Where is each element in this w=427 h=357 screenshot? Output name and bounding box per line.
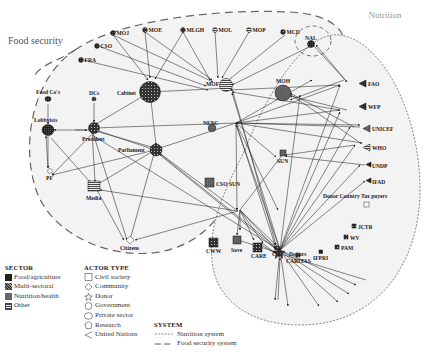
network-diagram: Food security Nutrition <box>0 0 427 357</box>
food-security-label: Food security <box>8 35 63 46</box>
svg-text:IFPRI: IFPRI <box>313 255 328 261</box>
legend-sector-nutrition: Nutrition/health <box>5 292 61 302</box>
svg-text:CARITAS: CARITAS <box>286 258 311 264</box>
legend-system-food-security: Food security system <box>154 339 237 349</box>
svg-text:Media: Media <box>86 195 101 201</box>
svg-text:UNDP: UNDP <box>372 163 388 169</box>
legend-system: SYSTEM Nutrition system Food security sy… <box>154 320 237 349</box>
legend-actor-community: Community <box>84 282 138 292</box>
legend-sector-multi: Multi-sectoral <box>5 282 61 292</box>
legend-sector: SECTOR Food/agriculture Multi-sectoral N… <box>5 263 61 311</box>
node-mop[interactable]: MOP <box>247 27 267 33</box>
legend-system-title: SYSTEM <box>154 320 237 330</box>
svg-text:MCD: MCD <box>287 29 300 35</box>
legend-actor-research: Research <box>84 321 138 331</box>
node-mcd[interactable]: MCD <box>281 29 300 35</box>
svg-text:MOL: MOL <box>219 27 233 33</box>
nutrition-label: Nutrition <box>369 10 402 20</box>
svg-text:WV: WV <box>350 235 360 241</box>
node-mol[interactable]: MOL <box>213 27 233 33</box>
square-icon <box>84 273 93 281</box>
svg-text:Cabinet: Cabinet <box>117 90 136 96</box>
legend-actor-civil: Civil society <box>84 273 138 283</box>
diamond-icon <box>84 283 93 291</box>
svg-text:Save: Save <box>231 247 243 253</box>
food-swatch-icon <box>5 274 12 281</box>
legend-actor-private: Private sector <box>84 311 138 321</box>
svg-text:Citizens: Citizens <box>120 245 140 251</box>
ellipse-icon <box>84 312 93 320</box>
multi-swatch-icon <box>5 283 12 290</box>
legend-system-nutrition: Nutrition system <box>154 330 237 340</box>
svg-text:Food Co's: Food Co's <box>36 89 61 95</box>
svg-text:PAM: PAM <box>341 245 354 251</box>
svg-text:PF: PF <box>46 175 53 181</box>
legend-sector-food: Food/agriculture <box>5 273 61 283</box>
node-mlgh[interactable]: MLGH <box>181 27 205 33</box>
svg-text:MOE: MOE <box>149 27 163 33</box>
legend-actor-government: Government <box>84 301 138 311</box>
svg-text:MOF: MOF <box>206 81 220 87</box>
legend-actor-type: ACTOR TYPE Civil society Community Donor… <box>84 263 138 340</box>
pentagon-icon <box>84 321 93 329</box>
svg-text:MOJ: MOJ <box>117 30 130 36</box>
node-moh[interactable]: MOH <box>275 78 291 101</box>
svg-text:WHO: WHO <box>372 145 387 151</box>
star-icon <box>84 293 93 301</box>
legend-sector-title: SECTOR <box>5 263 61 273</box>
svg-text:CRS: CRS <box>272 251 283 257</box>
svg-text:WFP: WFP <box>368 104 381 110</box>
node-fra[interactable]: FRA <box>79 57 96 63</box>
dashed-line-icon <box>154 341 174 347</box>
svg-text:Parliament: Parliament <box>118 147 145 153</box>
node-media[interactable]: Media <box>86 181 101 201</box>
svg-text:MOP: MOP <box>253 27 267 33</box>
svg-text:CWW: CWW <box>206 248 222 254</box>
svg-text:Donor Country Tax payers: Donor Country Tax payers <box>323 193 388 199</box>
nutrition-swatch-icon <box>5 293 12 300</box>
circle-icon <box>84 302 93 310</box>
svg-text:FRA: FRA <box>85 57 97 63</box>
other-swatch-icon <box>5 303 12 310</box>
legend-sector-other: Other <box>5 301 61 311</box>
svg-text:President: President <box>82 136 105 142</box>
legend-actor-un: United Nations <box>84 330 138 340</box>
svg-text:FAO: FAO <box>368 81 380 87</box>
svg-text:MOH: MOH <box>276 78 291 84</box>
svg-text:NAL: NAL <box>305 35 317 41</box>
svg-text:MLGH: MLGH <box>187 27 205 33</box>
dotted-line-icon <box>154 331 174 337</box>
svg-text:IFAD: IFAD <box>372 179 385 185</box>
node-moj[interactable]: MOJ <box>111 30 130 36</box>
node-unicef[interactable]: UNICEF <box>363 125 394 132</box>
svg-text:JCTR: JCTR <box>358 224 374 230</box>
svg-text:NFNC: NFNC <box>203 120 219 126</box>
svg-text:CARE: CARE <box>251 253 267 259</box>
node-moe[interactable]: MOE <box>143 27 163 33</box>
node-cso[interactable]: CSO <box>95 43 113 49</box>
svg-text:DCs: DCs <box>89 90 100 96</box>
legend-actor-title: ACTOR TYPE <box>84 263 138 273</box>
svg-text:CSO SUN: CSO SUN <box>216 181 240 187</box>
svg-text:Lobbyists: Lobbyists <box>34 117 58 123</box>
legend-actor-donor: Donor <box>84 292 138 302</box>
svg-text:SUN: SUN <box>277 158 288 164</box>
svg-text:CSO: CSO <box>101 43 113 49</box>
svg-text:UNICEF: UNICEF <box>372 126 394 132</box>
triangle-left-icon <box>84 331 93 339</box>
